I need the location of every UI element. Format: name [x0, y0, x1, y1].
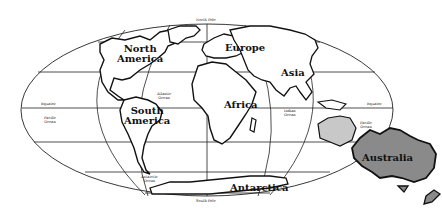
label-atlantic-ocean: AtlanticOcean — [157, 93, 171, 101]
label-asia: Asia — [281, 68, 305, 78]
label-indian-ocean: IndianOcean — [284, 110, 296, 118]
label-africa: Africa — [224, 100, 258, 110]
label-antarctic-ocean: AntarcticOcean — [141, 176, 158, 184]
madagascar-shape — [250, 118, 256, 132]
greenland-shape — [168, 26, 200, 44]
new-zealand-shape — [424, 190, 440, 204]
indonesia-shape — [318, 100, 346, 110]
label-antarctica: Antarctica — [230, 183, 288, 193]
label-north-america: North America — [117, 44, 163, 64]
label-australia: Australia — [362, 153, 413, 163]
label-pacific-ocean-right: PacificOcean — [360, 122, 372, 130]
australia-ghost-shape — [318, 116, 356, 146]
label-pacific-ocean-left: PacificOcean — [44, 117, 56, 125]
label-equator-left: Equator — [41, 103, 56, 107]
label-south-america: South America — [124, 106, 170, 126]
world-map — [0, 0, 442, 217]
label-equator-right: Equator — [367, 103, 382, 107]
label-europe: Europe — [225, 43, 265, 53]
label-south-pole: South Pole — [196, 200, 216, 204]
tasmania-shape — [398, 186, 408, 192]
label-north-pole: North Pole — [196, 19, 216, 23]
